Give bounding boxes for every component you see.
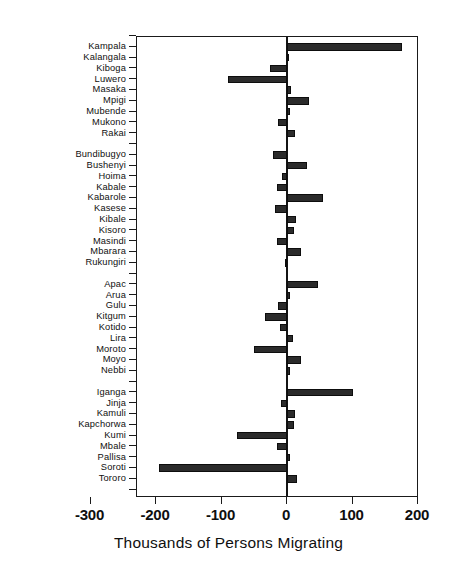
y-tick xyxy=(129,121,136,122)
plot-area xyxy=(136,36,418,497)
y-axis-label-kabale: Kabale xyxy=(96,182,126,192)
y-axis-label-pallisa: Pallisa xyxy=(98,452,126,462)
x-tick--200 xyxy=(155,497,156,504)
y-tick xyxy=(129,283,136,284)
y-tick xyxy=(129,348,136,349)
bar-row xyxy=(137,128,417,139)
bar-masindi xyxy=(277,238,287,245)
y-tick xyxy=(129,370,136,371)
bar-row xyxy=(137,452,417,463)
bar-row xyxy=(137,290,417,301)
bar-rakai xyxy=(287,130,295,137)
bar-row xyxy=(137,85,417,96)
y-axis-label-rakai: Rakai xyxy=(101,128,126,138)
y-axis-label-kibale: Kibale xyxy=(99,214,126,224)
y-axis-label-kampala: Kampala xyxy=(88,41,126,51)
y-axis-label-mukono: Mukono xyxy=(92,117,126,127)
bar-row xyxy=(137,226,417,237)
y-axis-label-gulu: Gulu xyxy=(106,300,126,310)
bar-row xyxy=(137,334,417,345)
bar-kalangala xyxy=(287,54,289,61)
y-tick xyxy=(129,67,136,68)
bar-row xyxy=(137,409,417,420)
y-axis-label-luwero: Luwero xyxy=(95,74,126,84)
bar-row xyxy=(137,161,417,172)
bar-row xyxy=(137,236,417,247)
y-tick xyxy=(129,57,136,58)
bar-rukungiri xyxy=(285,259,287,266)
y-tick-blank xyxy=(129,35,136,36)
bar-row xyxy=(137,182,417,193)
y-axis-label-soroti: Soroti xyxy=(101,462,126,472)
y-axis-label-arua: Arua xyxy=(106,290,126,300)
y-axis-label-mpigi: Mpigi xyxy=(103,95,126,105)
y-axis-label-bundibugyo: Bundibugyo xyxy=(75,149,126,159)
bar-kumi xyxy=(237,432,287,439)
bar-row xyxy=(137,247,417,258)
y-tick xyxy=(129,219,136,220)
y-tick xyxy=(129,262,136,263)
y-axis-label-bushenyi: Bushenyi xyxy=(87,160,126,170)
y-axis-label-kasese: Kasese xyxy=(94,203,126,213)
y-tick xyxy=(129,327,136,328)
x-axis-label--300: -300 xyxy=(55,506,125,523)
bar-mpigi xyxy=(287,97,309,104)
y-axis-label-kapchorwa: Kapchorwa xyxy=(78,419,126,429)
y-tick xyxy=(129,186,136,187)
y-tick xyxy=(129,78,136,79)
bar-row xyxy=(137,323,417,334)
bar-row xyxy=(137,258,417,269)
bar-kabale xyxy=(277,184,287,191)
y-axis-label-kisoro: Kisoro xyxy=(99,225,126,235)
y-tick xyxy=(129,46,136,47)
x-tick-0 xyxy=(286,497,287,504)
bar-nebbi xyxy=(287,367,290,374)
y-tick-blank xyxy=(129,273,136,274)
bar-row xyxy=(137,74,417,85)
y-tick xyxy=(129,208,136,209)
x-tick--300 xyxy=(90,497,91,504)
y-tick xyxy=(129,294,136,295)
y-tick xyxy=(129,229,136,230)
x-axis-label-200: 200 xyxy=(382,506,452,523)
y-tick xyxy=(129,305,136,306)
bar-mbarara xyxy=(287,248,301,255)
y-axis-label-kumi: Kumi xyxy=(104,430,126,440)
bar-hoima xyxy=(282,173,287,180)
bar-bundibugyo xyxy=(273,151,287,158)
bar-bushenyi xyxy=(287,162,307,169)
bar-kampala xyxy=(287,43,402,50)
bar-gulu xyxy=(278,302,287,309)
bar-row xyxy=(137,366,417,377)
y-axis-label-kabarole: Kabarole xyxy=(88,192,126,202)
bar-kabarole xyxy=(287,194,323,201)
x-axis-label--200: -200 xyxy=(120,506,190,523)
y-axis-label-iganga: Iganga xyxy=(97,387,126,397)
y-tick xyxy=(129,413,136,414)
bar-row xyxy=(137,172,417,183)
y-tick-blank xyxy=(129,143,136,144)
bar-row xyxy=(137,301,417,312)
y-axis-label-kiboga: Kiboga xyxy=(96,63,126,73)
bar-row xyxy=(137,280,417,291)
bar-row xyxy=(137,118,417,129)
y-tick xyxy=(129,359,136,360)
bar-mubende xyxy=(287,108,290,115)
bar-mukono xyxy=(278,119,287,126)
bar-apac xyxy=(287,281,318,288)
y-tick xyxy=(129,316,136,317)
bar-row xyxy=(137,204,417,215)
y-axis-label-moyo: Moyo xyxy=(103,354,126,364)
y-axis-label-masindi: Masindi xyxy=(93,236,126,246)
x-axis-title: Thousands of Persons Migrating xyxy=(0,534,457,552)
migration-bar-chart: KampalaKalangalaKibogaLuweroMasakaMpigiM… xyxy=(0,0,457,588)
bar-row xyxy=(137,442,417,453)
bar-row xyxy=(137,312,417,323)
y-tick xyxy=(129,100,136,101)
bar-luwero xyxy=(228,76,287,83)
bar-row xyxy=(137,420,417,431)
bar-row xyxy=(137,474,417,485)
y-tick-blank xyxy=(129,381,136,382)
bar-row xyxy=(137,42,417,53)
bar-kisoro xyxy=(287,227,294,234)
